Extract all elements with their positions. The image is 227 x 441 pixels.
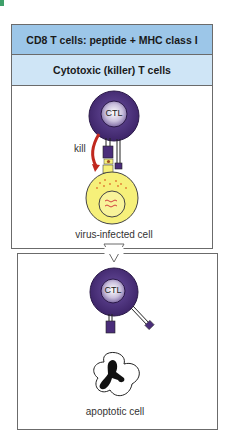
ctl-label-top: CTL: [100, 108, 128, 118]
diagram-graphics: kill: [0, 0, 227, 441]
transition-arrow-icon: [104, 244, 124, 262]
ctl-label-bottom: CTL: [99, 285, 127, 295]
ctl-cell-bottom: [90, 268, 154, 333]
kill-arrow-icon: [92, 134, 100, 172]
virus-infected-cell: [86, 172, 138, 224]
kill-label: kill: [74, 143, 86, 154]
mhc-class-i-icon: [103, 159, 113, 173]
tcr-receptor-icon: [103, 138, 122, 169]
apoptotic-cell-label: apoptotic cell: [70, 406, 160, 417]
apoptotic-cell: [94, 352, 140, 395]
virus-infected-cell-label: virus-infected cell: [62, 229, 166, 240]
